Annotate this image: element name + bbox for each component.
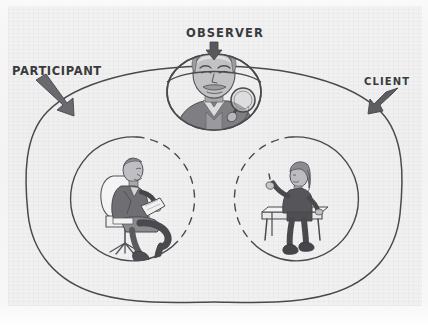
observer-label: OBSERVER: [186, 26, 264, 40]
participant-label: PARTICIPANT: [12, 64, 102, 78]
participant-figure: [101, 158, 170, 270]
diagram-artwork: [0, 0, 428, 328]
diagram-canvas: OBSERVER PARTICIPANT CLIENT: [0, 0, 428, 328]
client-arrow: [368, 88, 398, 114]
client-figure: [262, 162, 328, 255]
client-label: CLIENT: [364, 76, 410, 87]
